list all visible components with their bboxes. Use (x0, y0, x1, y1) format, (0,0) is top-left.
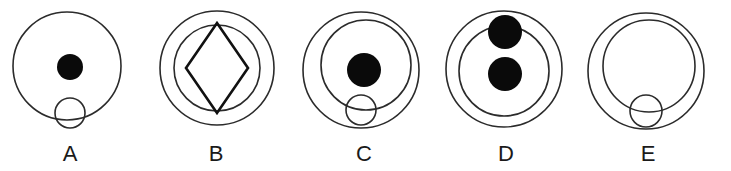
figure-label-c: C (356, 141, 372, 166)
filled-disc-top (488, 15, 522, 49)
figure-label-e: E (641, 141, 656, 166)
figure-series-svg: ABCDE (0, 0, 731, 171)
figure-label-a: A (63, 141, 78, 166)
figure-panel: ABCDE (0, 0, 731, 171)
filled-disc (57, 54, 83, 80)
filled-disc-centre (488, 57, 522, 91)
figure-label-d: D (498, 141, 514, 166)
figure-label-b: B (209, 141, 224, 166)
filled-disc (347, 53, 381, 87)
